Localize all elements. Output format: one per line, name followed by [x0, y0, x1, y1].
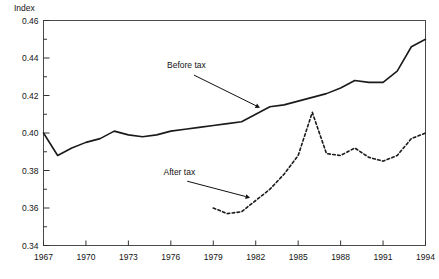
- x-tick-label: 1976: [161, 252, 180, 262]
- line-chart: 0.340.360.380.400.420.440.46 19671970197…: [0, 0, 439, 279]
- x-tick-label: 1979: [204, 252, 223, 262]
- x-axis-tick-labels: 1967197019731976197919821985198819911994: [34, 252, 435, 262]
- annotation-label-after-tax: After tax: [163, 167, 195, 177]
- y-tick-label: 0.38: [22, 166, 39, 176]
- x-tick-label: 1985: [289, 252, 308, 262]
- chart-figure: 0.340.360.380.400.420.440.46 19671970197…: [0, 0, 439, 279]
- y-tick-label: 0.40: [22, 128, 39, 138]
- x-tick-label: 1973: [119, 252, 138, 262]
- x-tick-label: 1982: [246, 252, 265, 262]
- x-tick-label: 1988: [331, 252, 350, 262]
- annotation-arrow: [187, 181, 246, 196]
- x-axis-ticks: [44, 241, 426, 246]
- annotation-label-before-tax: Before tax: [167, 60, 206, 70]
- x-tick-label: 1967: [34, 252, 53, 262]
- series-line-before-tax: [44, 39, 426, 155]
- plot-frame-group: [44, 21, 426, 246]
- data-series-group: [44, 39, 426, 213]
- y-tick-label: 0.36: [22, 203, 39, 213]
- x-tick-label: 1970: [76, 252, 95, 262]
- y-axis-tick-labels: 0.340.360.380.400.420.440.46: [22, 16, 39, 251]
- y-tick-label: 0.46: [22, 16, 39, 26]
- x-tick-label: 1991: [374, 252, 393, 262]
- series-line-after-tax: [213, 112, 425, 213]
- plot-area-border: [44, 21, 426, 246]
- y-axis-title: Index: [14, 3, 36, 13]
- annotation-arrow: [194, 75, 256, 106]
- y-tick-label: 0.34: [22, 241, 39, 251]
- x-tick-label: 1994: [416, 252, 435, 262]
- y-tick-label: 0.44: [22, 53, 39, 63]
- annotation-arrow-head: [245, 194, 250, 199]
- y-tick-label: 0.42: [22, 91, 39, 101]
